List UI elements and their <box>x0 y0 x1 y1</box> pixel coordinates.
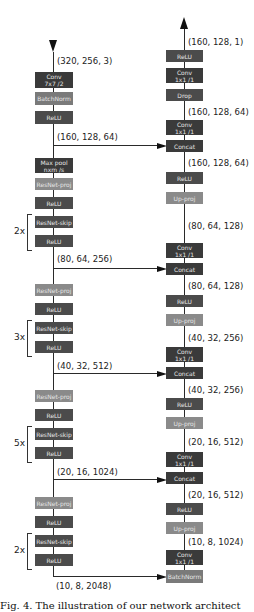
decoder-relu-3: ReLU <box>166 398 203 410</box>
decoder-dim-1: (160, 128, 64) <box>188 107 249 117</box>
encoder-relu-4a: ReLU <box>35 516 73 528</box>
skip-dim-2: (80, 64, 256) <box>57 254 112 264</box>
repeat-count-4: 2x <box>14 545 25 555</box>
repeat-count-2: 3x <box>14 332 25 342</box>
decoder-dim-2: (160, 128, 64) <box>188 158 249 168</box>
decoder-up-proj-3: Up-proj <box>166 417 203 429</box>
decoder-dropout: Drop <box>166 89 203 101</box>
decoder-dim-9: (10, 8, 1024) <box>188 537 243 547</box>
encoder-conv7x7: Conv7x7 /2 <box>35 72 73 88</box>
input-arrow-icon <box>49 40 57 52</box>
decoder-conv-4: Conv1x1 /1 <box>166 452 203 467</box>
decoder-relu-2: ReLU <box>166 295 203 307</box>
decoder-up-proj-1: Up-proj <box>166 192 203 204</box>
encoder-relu-2a: ReLU <box>35 303 73 315</box>
decoder-conv-out: Conv1x1 /1 <box>166 68 203 83</box>
encoder-resnet-skip-3: ResNet-skip <box>35 428 73 440</box>
encoder-resnet-proj-4: ResNet-proj <box>35 497 73 509</box>
encoder-relu-3b: ReLU <box>35 447 73 459</box>
decoder-conv-1: Conv1x1 /1 <box>166 120 203 135</box>
skip-dim-1: (160, 128, 64) <box>57 132 118 142</box>
decoder-dim-8: (20, 16, 512) <box>188 490 243 500</box>
decoder-relu-1: ReLU <box>166 172 203 184</box>
decoder-batchnorm: BatchNorm <box>166 570 203 583</box>
encoder-resnet-skip-4: ResNet-skip <box>35 535 73 547</box>
encoder-relu: ReLU <box>35 111 73 124</box>
bottleneck-connection <box>53 576 158 577</box>
decoder-concat-2: Concat <box>166 263 203 275</box>
decoder-dim-6: (40, 32, 256) <box>188 385 243 395</box>
decoder-up-proj-4: Up-proj <box>166 522 203 534</box>
encoder-relu-1a: ReLU <box>35 197 73 209</box>
decoder-concat-3: Concat <box>166 367 203 379</box>
decoder-up-proj-2: Up-proj <box>166 314 203 326</box>
skip-connection-2 <box>53 268 158 269</box>
decoder-dim-7: (20, 16, 512) <box>188 437 243 447</box>
skip-dim-3: (40, 32, 512) <box>57 361 112 371</box>
output-dim-label: (160, 128, 1) <box>188 37 243 47</box>
repeat-bracket-3 <box>27 426 32 463</box>
repeat-count-1: 2x <box>14 226 25 236</box>
decoder-relu-4: ReLU <box>166 503 203 515</box>
decoder-dim-4: (80, 64, 128) <box>188 281 243 291</box>
encoder-relu-4b: ReLU <box>35 554 73 566</box>
repeat-bracket-1 <box>27 214 32 251</box>
decoder-relu-out: ReLU <box>166 50 203 62</box>
encoder-maxpool: Max poolnxm /s <box>35 158 73 173</box>
input-dim-label: (320, 256, 3) <box>57 56 112 66</box>
skip-connection-3 <box>53 373 158 374</box>
encoder-relu-1b: ReLU <box>35 235 73 247</box>
repeat-bracket-2 <box>27 320 32 357</box>
decoder-dim-3: (80, 64, 128) <box>188 221 243 231</box>
encoder-resnet-proj-3: ResNet-proj <box>35 390 73 402</box>
encoder-relu-2b: ReLU <box>35 341 73 353</box>
encoder-resnet-proj-2: ResNet-proj <box>35 284 73 296</box>
bottleneck-dim: (10, 8, 2048) <box>56 581 111 591</box>
decoder-conv-2: Conv1x1 /1 <box>166 243 203 258</box>
skip-connection-4 <box>53 479 158 480</box>
skip-connection-1 <box>53 145 158 146</box>
encoder-resnet-skip-1: ResNet-skip <box>35 216 73 228</box>
encoder-resnet-proj-1: ResNet-proj <box>35 178 73 190</box>
skip-dim-4: (20, 16, 1024) <box>57 467 118 477</box>
decoder-conv-5: Conv1x1 /1 <box>166 550 203 565</box>
decoder-concat-4: Concat <box>166 472 203 484</box>
encoder-resnet-skip-2: ResNet-skip <box>35 322 73 334</box>
encoder-batchnorm: BatchNorm <box>35 92 73 105</box>
repeat-count-3: 5x <box>14 438 25 448</box>
encoder-relu-3a: ReLU <box>35 409 73 421</box>
decoder-concat-1: Concat <box>166 140 203 152</box>
decoder-conv-3: Conv1x1 /1 <box>166 347 203 362</box>
repeat-bracket-4 <box>27 533 32 570</box>
decoder-dim-5: (40, 32, 256) <box>188 333 243 343</box>
figure-caption: Fig. 4. The illustration of our network … <box>0 600 240 611</box>
output-arrow-icon <box>180 17 188 29</box>
